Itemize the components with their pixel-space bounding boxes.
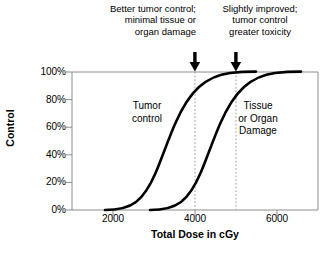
y-tick-label-40: 40% [24, 150, 66, 160]
annotation-right-text: Slightly improved; tumor control greater… [202, 3, 318, 37]
marker-arrows [190, 52, 242, 72]
down-arrow-right-icon [231, 52, 242, 72]
curve-label-tumor-control: Tumor control [112, 100, 182, 125]
curve-tumor-control [105, 72, 256, 210]
x-tick-label-2000: 2000 [91, 214, 135, 224]
guide-lines [195, 72, 236, 210]
y-tick-label-80: 80% [24, 95, 66, 105]
y-tick-label-100: 100% [24, 67, 66, 77]
curve-label-tissue-organ-damage: Tissue or Organ Damage [222, 100, 294, 138]
y-axis-title: Control [4, 92, 16, 164]
down-arrow-left-icon [190, 52, 201, 72]
y-tick-label-0: 0% [24, 205, 66, 215]
x-axis-title: Total Dose in cGy [72, 228, 318, 240]
curve-tissue-organ-damage [150, 72, 301, 210]
x-tick-label-6000: 6000 [255, 214, 299, 224]
y-tick-label-60: 60% [24, 122, 66, 132]
annotation-left-text: Better tumor control; minimal tissue or … [72, 3, 196, 37]
y-tick-label-20: 20% [24, 177, 66, 187]
y-axis-ticks [66, 72, 72, 210]
sigmoid-dose-response-chart: Better tumor control; minimal tissue or … [0, 0, 332, 256]
x-tick-label-4000: 4000 [173, 214, 217, 224]
